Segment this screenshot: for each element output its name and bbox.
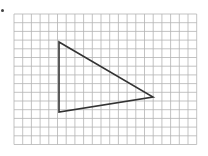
grid-diagram <box>0 0 208 156</box>
grid-lines <box>14 14 197 145</box>
triangle <box>59 42 153 112</box>
